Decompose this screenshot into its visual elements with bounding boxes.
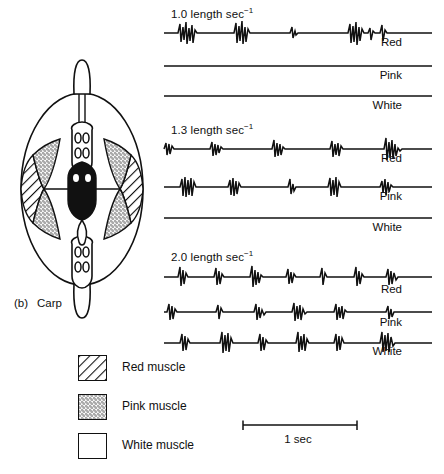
fish-cross-section-diagram [0, 58, 165, 320]
figure-carp-emg: (b)Carp Red muscle Pink muscle White mus… [0, 0, 444, 474]
stipple-fill-icon [79, 395, 106, 419]
panel-1-0-trace-svg [162, 18, 444, 106]
panel-1-3-traces [162, 134, 444, 224]
figure-caption: (b)Carp [14, 297, 62, 309]
trace-label-white-1-3: White [338, 221, 402, 233]
caption-text: Carp [37, 297, 62, 309]
white-muscle-swatch [78, 433, 107, 459]
ventral-fin [74, 284, 90, 318]
trace-label-red-2-0: Red [338, 283, 402, 295]
panel-2-0-traces [162, 262, 444, 357]
scale-bar: 1 sec [238, 420, 363, 454]
panel-1-3-exponent: −1 [244, 122, 253, 131]
panel-1-3-trace-svg [162, 134, 444, 224]
fish-cross-section-svg [0, 58, 165, 320]
pink-muscle-swatch [78, 394, 107, 420]
scale-bar-label: 1 sec [238, 433, 358, 445]
trace-label-red-1-3: Red [338, 152, 402, 164]
trace-label-pink-2-0: Pink [338, 316, 402, 328]
hatch-fill-icon [79, 356, 106, 380]
panel-2-0-trace-svg [162, 262, 444, 357]
trace-label-pink-1-3: Pink [338, 190, 402, 202]
legend-label-pink: Pink muscle [122, 399, 187, 413]
panel-1-0-exponent: −1 [244, 6, 253, 15]
panel-2-0-exponent: −1 [244, 249, 253, 258]
vertebral-centrum [68, 162, 96, 220]
scale-bar-svg [238, 420, 363, 434]
legend-label-red: Red muscle [122, 360, 185, 374]
caption-letter: (b) [14, 297, 28, 309]
trace-label-pink-1-0: Pink [338, 69, 402, 81]
red-muscle-swatch [78, 355, 107, 381]
legend-label-white: White muscle [122, 438, 194, 452]
trace-label-white-1-0: White [338, 99, 402, 111]
dorsal-fin [74, 60, 90, 94]
panel-1-0-traces [162, 18, 444, 106]
trace-label-white-2-0: White [338, 345, 402, 357]
trace-label-red-1-0: Red [338, 36, 402, 48]
